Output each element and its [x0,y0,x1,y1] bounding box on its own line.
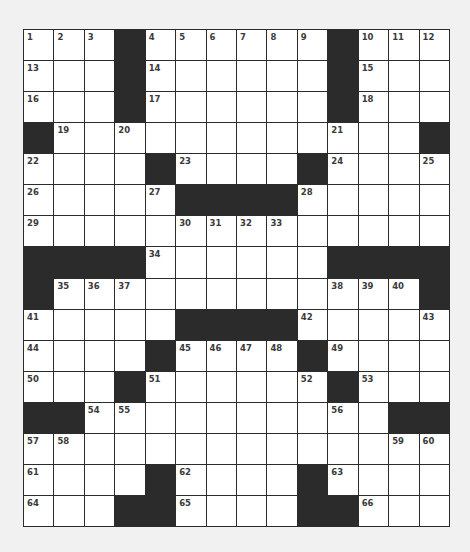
grid-cell[interactable] [85,92,114,122]
grid-cell[interactable]: 55 [115,403,144,433]
grid-cell[interactable] [237,496,266,526]
grid-cell[interactable] [389,465,418,495]
grid-cell[interactable]: 38 [328,279,357,309]
grid-cell[interactable] [267,247,296,277]
grid-cell[interactable]: 40 [389,279,418,309]
grid-cell[interactable]: 42 [298,310,327,340]
grid-cell[interactable] [389,372,418,402]
grid-cell[interactable] [267,61,296,91]
grid-cell[interactable]: 63 [328,465,357,495]
grid-cell[interactable]: 18 [359,92,388,122]
grid-cell[interactable]: 25 [420,154,449,184]
grid-cell[interactable] [115,185,144,215]
grid-cell[interactable] [54,61,83,91]
grid-cell[interactable] [54,372,83,402]
grid-cell[interactable] [237,279,266,309]
grid-cell[interactable]: 64 [24,496,53,526]
grid-cell[interactable]: 33 [267,216,296,246]
grid-cell[interactable]: 17 [146,92,175,122]
grid-cell[interactable]: 19 [54,123,83,153]
grid-cell[interactable]: 61 [24,465,53,495]
grid-cell[interactable] [359,434,388,464]
grid-cell[interactable] [298,279,327,309]
grid-cell[interactable] [207,92,236,122]
grid-cell[interactable] [420,61,449,91]
grid-cell[interactable] [115,154,144,184]
grid-cell[interactable]: 52 [298,372,327,402]
grid-cell[interactable] [267,372,296,402]
grid-cell[interactable]: 24 [328,154,357,184]
grid-cell[interactable] [115,216,144,246]
grid-cell[interactable] [237,123,266,153]
grid-cell[interactable] [328,310,357,340]
grid-cell[interactable] [115,310,144,340]
grid-cell[interactable] [420,185,449,215]
grid-cell[interactable] [85,372,114,402]
grid-cell[interactable] [176,403,205,433]
grid-cell[interactable]: 29 [24,216,53,246]
grid-cell[interactable]: 45 [176,341,205,371]
grid-cell[interactable] [389,341,418,371]
grid-cell[interactable]: 9 [298,30,327,60]
grid-cell[interactable]: 4 [146,30,175,60]
grid-cell[interactable]: 35 [54,279,83,309]
grid-cell[interactable]: 58 [54,434,83,464]
grid-cell[interactable] [54,92,83,122]
grid-cell[interactable]: 34 [146,247,175,277]
grid-cell[interactable] [54,496,83,526]
grid-cell[interactable]: 43 [420,310,449,340]
grid-cell[interactable]: 51 [146,372,175,402]
grid-cell[interactable]: 31 [207,216,236,246]
grid-cell[interactable]: 57 [24,434,53,464]
grid-cell[interactable] [207,61,236,91]
grid-cell[interactable] [54,341,83,371]
grid-cell[interactable] [146,279,175,309]
grid-cell[interactable]: 66 [359,496,388,526]
grid-cell[interactable]: 3 [85,30,114,60]
grid-cell[interactable] [328,216,357,246]
grid-cell[interactable] [389,154,418,184]
grid-cell[interactable] [389,496,418,526]
grid-cell[interactable] [298,434,327,464]
grid-cell[interactable] [420,216,449,246]
grid-cell[interactable] [207,123,236,153]
grid-cell[interactable] [85,185,114,215]
grid-cell[interactable] [146,434,175,464]
grid-cell[interactable] [298,403,327,433]
grid-cell[interactable]: 27 [146,185,175,215]
grid-cell[interactable] [85,61,114,91]
grid-cell[interactable] [54,310,83,340]
grid-cell[interactable] [207,279,236,309]
grid-cell[interactable]: 16 [24,92,53,122]
grid-cell[interactable] [267,123,296,153]
grid-cell[interactable] [237,465,266,495]
grid-cell[interactable] [359,465,388,495]
grid-cell[interactable] [146,403,175,433]
grid-cell[interactable]: 15 [359,61,388,91]
grid-cell[interactable]: 62 [176,465,205,495]
grid-cell[interactable] [207,372,236,402]
grid-cell[interactable] [420,465,449,495]
grid-cell[interactable]: 53 [359,372,388,402]
grid-cell[interactable] [298,92,327,122]
grid-cell[interactable] [237,434,266,464]
grid-cell[interactable] [85,123,114,153]
grid-cell[interactable] [176,61,205,91]
grid-cell[interactable]: 36 [85,279,114,309]
grid-cell[interactable] [267,279,296,309]
grid-cell[interactable]: 10 [359,30,388,60]
grid-cell[interactable] [359,185,388,215]
grid-cell[interactable] [85,216,114,246]
grid-cell[interactable] [359,341,388,371]
grid-cell[interactable]: 11 [389,30,418,60]
grid-cell[interactable] [176,372,205,402]
grid-cell[interactable] [207,154,236,184]
grid-cell[interactable]: 23 [176,154,205,184]
grid-cell[interactable] [237,61,266,91]
grid-cell[interactable] [176,279,205,309]
grid-cell[interactable] [146,216,175,246]
grid-cell[interactable] [115,341,144,371]
grid-cell[interactable] [359,123,388,153]
grid-cell[interactable] [207,496,236,526]
grid-cell[interactable] [85,496,114,526]
